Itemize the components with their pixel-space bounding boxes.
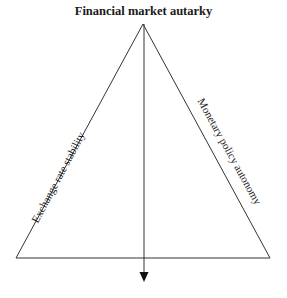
arrow-down-icon: [140, 272, 149, 282]
top-vertex-label: Financial market autarky: [0, 4, 287, 18]
triangle-outline: [16, 24, 270, 258]
impossible-trinity-diagram: Financial market autarky Exchange rate s…: [0, 0, 287, 298]
triangle-graphic: [0, 0, 287, 298]
